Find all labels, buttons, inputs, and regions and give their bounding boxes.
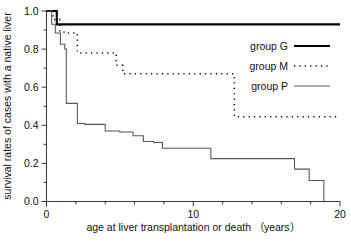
y-axis-tick-label: 1.0 (24, 5, 39, 17)
y-axis-tick-label: 0.0 (24, 195, 39, 207)
chart-canvas: 0.00.20.40.60.81.0 01020 survival rates … (0, 0, 351, 246)
survival-curve-chart: 0.00.20.40.60.81.0 01020 survival rates … (0, 0, 351, 246)
plot-background (0, 0, 351, 246)
x-axis-title: age at liver transplantation or death （y… (86, 221, 299, 233)
legend-label-group-m: group M (249, 60, 288, 72)
y-axis-tick-label: 0.8 (24, 43, 39, 55)
x-axis-tick-label: 20 (334, 208, 346, 220)
legend-label-group-p: group P (251, 80, 288, 92)
x-axis-tick-label: 10 (187, 208, 199, 220)
y-axis-title: survival rates of cases with a native li… (1, 12, 13, 200)
legend-label-group-g: group G (250, 40, 288, 52)
y-axis-tick-label: 0.2 (24, 157, 39, 169)
y-axis-tick-label: 0.4 (24, 119, 39, 131)
x-axis-tick-label: 0 (44, 208, 50, 220)
y-axis-tick-label: 0.6 (24, 81, 39, 93)
